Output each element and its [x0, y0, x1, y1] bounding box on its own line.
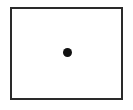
- center-dot: [63, 48, 72, 57]
- diagram-canvas: [0, 0, 133, 110]
